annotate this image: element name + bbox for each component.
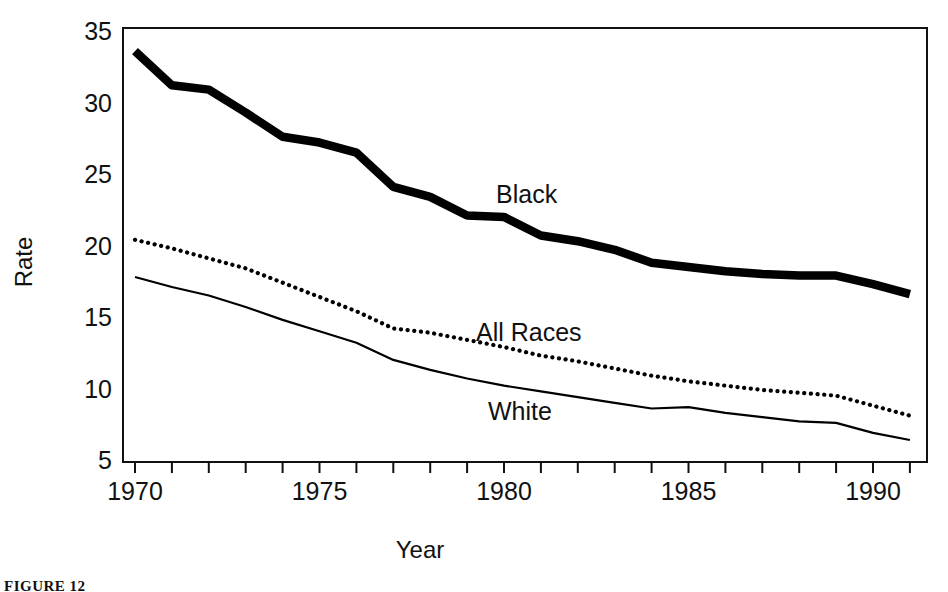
- series-label-white: White: [488, 397, 552, 425]
- y-axis-tick-label: 15: [84, 303, 112, 331]
- y-axis-tick-label: 10: [84, 375, 112, 403]
- x-axis-tick-label: 1975: [292, 477, 348, 505]
- caption-fragment: FIGURE 12: [4, 578, 86, 592]
- x-axis-tick-label: 1990: [845, 477, 901, 505]
- series-group: [135, 51, 910, 440]
- x-axis-tick-label: 1970: [107, 477, 163, 505]
- y-axis-tick-label: 35: [84, 17, 112, 45]
- series-line-black: [135, 51, 910, 294]
- x-axis-tick-labels: 19701975198019851990: [107, 477, 901, 505]
- x-axis-title: Year: [396, 536, 445, 563]
- y-axis-tick-label: 5: [98, 446, 112, 474]
- series-label-black: Black: [496, 180, 558, 208]
- y-axis-title: Rate: [10, 237, 37, 288]
- y-axis-tick-label: 30: [84, 89, 112, 117]
- series-label-all-races: All Races: [476, 318, 582, 346]
- x-axis-ticks: [135, 462, 910, 473]
- y-axis-tick-label: 20: [84, 232, 112, 260]
- x-axis-tick-label: 1985: [661, 477, 717, 505]
- x-axis-tick-label: 1980: [476, 477, 532, 505]
- y-axis-tick-labels: 5101520253035: [84, 17, 112, 474]
- y-axis-tick-label: 25: [84, 160, 112, 188]
